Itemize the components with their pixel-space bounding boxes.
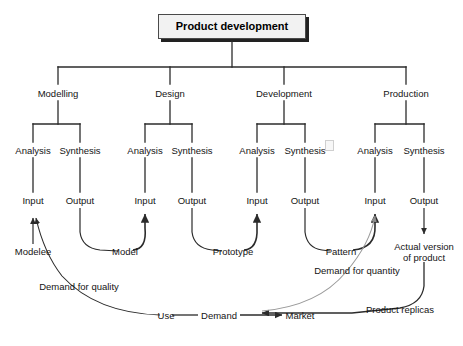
phase-label-production: Production	[383, 88, 428, 99]
feedback-label-product-replicas: Product replicas	[366, 304, 434, 315]
analysis-label-production: Analysis	[357, 145, 392, 156]
market-cycle-label-demand: Demand	[201, 310, 237, 321]
artifact-label-pattern: Pattern	[326, 246, 357, 257]
analysis-label-modelling: Analysis	[15, 145, 50, 156]
feedback-label-demand-for-quantity: Demand for quantity	[314, 265, 400, 276]
artifact-label-modelee: Modelee	[15, 246, 51, 257]
diagram-lines	[0, 0, 463, 346]
stray-cursor-icon	[325, 140, 334, 151]
analysis-label-design: Analysis	[127, 145, 162, 156]
artifact-label-actual-version-line1: Actual version	[394, 241, 454, 252]
artifact-label-prototype: Prototype	[213, 246, 254, 257]
market-cycle-label-use: Use	[158, 310, 175, 321]
analysis-label-development: Analysis	[239, 145, 274, 156]
synthesis-label-design: Synthesis	[171, 145, 212, 156]
synthesis-label-development: Synthesis	[284, 145, 325, 156]
phase-label-development: Development	[256, 88, 312, 99]
output-label-modelling: Output	[66, 195, 95, 206]
phase-label-modelling: Modelling	[38, 88, 79, 99]
phase-label-design: Design	[155, 88, 185, 99]
input-label-production: Input	[364, 195, 385, 206]
synthesis-label-production: Synthesis	[403, 145, 444, 156]
input-label-modelling: Input	[22, 195, 43, 206]
input-label-development: Input	[246, 195, 267, 206]
market-cycle-label-market: Market	[285, 310, 314, 321]
output-label-development: Output	[291, 195, 320, 206]
synthesis-label-modelling: Synthesis	[59, 145, 100, 156]
output-label-design: Output	[178, 195, 207, 206]
feedback-label-demand-for-quality: Demand for quality	[39, 281, 119, 292]
artifact-label-actual-version-line2: of product	[403, 252, 445, 263]
artifact-label-model: Model	[112, 246, 138, 257]
output-label-production: Output	[410, 195, 439, 206]
input-label-design: Input	[134, 195, 155, 206]
diagram-canvas: Product development	[0, 0, 463, 346]
